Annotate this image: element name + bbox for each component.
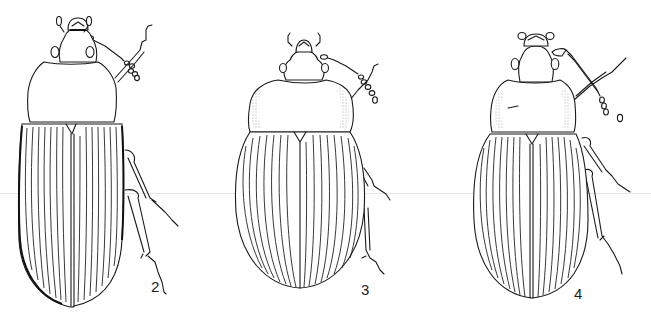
- beetle-2-pronotum: [28, 62, 117, 122]
- beetle-2-elytra: [19, 124, 124, 307]
- beetle-2-legs: [125, 150, 178, 294]
- beetle-figure-2: [19, 17, 178, 308]
- beetle-4-elytra: [474, 134, 588, 298]
- beetle-figure-4: [474, 33, 630, 299]
- beetle-4-head: [511, 33, 559, 83]
- beetle-figure-3: [236, 33, 390, 288]
- beetle-3-legs: [362, 168, 390, 274]
- beetle-3-pronotum: [249, 80, 354, 132]
- beetle-4-foreleg: [574, 58, 626, 100]
- beetle-3-elytra: [236, 132, 365, 288]
- figure-label-4: 4: [574, 286, 582, 301]
- figure-label-2: 2: [151, 279, 159, 294]
- beetle-2-head: [51, 17, 97, 63]
- beetle-4-legs: [582, 137, 630, 274]
- illustration-plate: 2 3 4: [0, 0, 651, 315]
- figure-label-3: 3: [361, 282, 369, 297]
- beetle-4-pronotum: [491, 80, 576, 132]
- beetle-drawings: [0, 0, 651, 315]
